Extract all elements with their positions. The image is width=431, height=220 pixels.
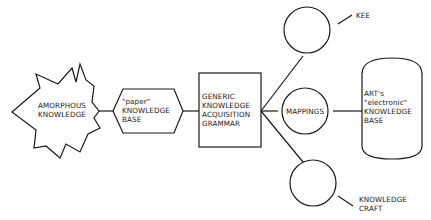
node-kee: KEE	[284, 7, 370, 53]
node-mappings: MAPPINGS	[282, 88, 328, 134]
grammar-label-line1: GENERIC	[202, 92, 235, 101]
node-generic-grammar: GENERIC KNOWLEDGE ACQUISITION GRAMMAR	[199, 73, 261, 147]
paper-kb-label-line2: KNOWLEDGE	[122, 106, 170, 115]
paper-kb-label-line3: BASE	[122, 115, 142, 124]
amorphous-label-line1: AMORPHOUS	[38, 101, 86, 110]
paper-kb-label-line1: "paper"	[122, 97, 150, 106]
craft-label-leader	[338, 196, 353, 206]
node-art-knowledge-base: ART's "electronic" KNOWLEDGE BASE	[362, 58, 422, 159]
art-kb-label-line4: BASE	[364, 116, 384, 125]
art-kb-label-line3: KNOWLEDGE	[364, 107, 412, 116]
craft-label-line2: CRAFT	[359, 204, 383, 213]
art-kb-label-line2: "electronic"	[364, 98, 407, 107]
node-knowledge-craft: KNOWLEDGE CRAFT	[290, 160, 407, 213]
mappings-label: MAPPINGS	[286, 107, 325, 116]
kee-label-leader	[338, 15, 352, 24]
kee-label: KEE	[356, 11, 370, 20]
amorphous-label-line2: KNOWLEDGE	[38, 110, 86, 119]
art-kb-label-line1: ART's	[364, 89, 384, 98]
node-paper-knowledge-base: "paper" KNOWLEDGE BASE	[113, 89, 183, 133]
grammar-label-line4: GRAMMAR	[202, 119, 240, 128]
diagram-canvas: AMORPHOUS KNOWLEDGE "paper" KNOWLEDGE BA…	[0, 0, 431, 220]
grammar-label-line3: ACQUISITION	[202, 110, 250, 119]
craft-label-line1: KNOWLEDGE	[359, 195, 407, 204]
node-amorphous-knowledge: AMORPHOUS KNOWLEDGE	[12, 64, 100, 158]
grammar-label-line2: KNOWLEDGE	[202, 101, 250, 110]
